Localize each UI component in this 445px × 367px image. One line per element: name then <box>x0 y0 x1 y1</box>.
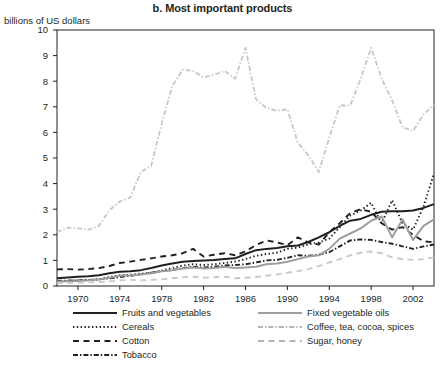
legend-swatch-cotton <box>73 335 117 347</box>
x-tick-label: 1970 <box>67 293 88 304</box>
legend-swatch-fruits-and-vegetables <box>73 307 117 319</box>
legend-column-left: Fruits and vegetables Cereals Cotton Tob… <box>73 306 211 362</box>
legend-swatch-fixed-vegetable-oils <box>258 307 302 319</box>
x-tick-label: 2002 <box>402 293 423 304</box>
x-tick-label: 1986 <box>235 293 256 304</box>
legend-item: Cereals <box>73 320 211 334</box>
x-axis-tick-labels: 197019741978198219861990199419982002 <box>67 293 423 304</box>
series-line-coffee-tea-cocoa-spices <box>57 48 434 232</box>
y-tick-label: 0 <box>43 280 48 291</box>
legend-item: Fruits and vegetables <box>73 306 211 320</box>
legend-swatch-cereals <box>73 321 117 333</box>
y-tick-label: 2 <box>43 229 48 240</box>
y-axis-ticks <box>53 30 57 286</box>
legend-label-fruits-and-vegetables: Fruits and vegetables <box>122 307 211 319</box>
series-line-tobacco <box>57 239 434 280</box>
x-tick-label: 1974 <box>109 293 130 304</box>
data-series-group <box>57 48 434 283</box>
x-tick-label: 1978 <box>151 293 172 304</box>
x-tick-label: 1994 <box>319 293 340 304</box>
y-tick-label: 8 <box>43 76 48 87</box>
legend-swatch-coffee-tea-cocoa-spices <box>258 321 302 333</box>
legend-item: Cotton <box>73 334 211 348</box>
y-tick-label: 5 <box>43 152 48 163</box>
legend-label-sugar-honey: Sugar, honey <box>307 335 362 347</box>
legend-item: Tobacco <box>73 348 211 362</box>
legend-item: Sugar, honey <box>258 334 414 348</box>
y-axis-tick-labels: 012345678910 <box>37 24 48 291</box>
line-chart-plot: 012345678910 197019741978198219861990199… <box>0 0 445 306</box>
y-tick-label: 10 <box>37 24 48 35</box>
y-tick-label: 1 <box>43 255 48 266</box>
legend-column-right: Fixed vegetable oils Coffee, tea, cocoa,… <box>258 306 414 348</box>
y-tick-label: 4 <box>43 178 48 189</box>
x-axis-ticks <box>78 286 413 290</box>
legend-swatch-tobacco <box>73 349 117 361</box>
legend-swatch-sugar-honey <box>258 335 302 347</box>
legend-label-tobacco: Tobacco <box>122 349 157 361</box>
x-tick-label: 1990 <box>277 293 298 304</box>
legend-item: Coffee, tea, cocoa, spices <box>258 320 414 334</box>
x-tick-label: 1998 <box>361 293 382 304</box>
y-tick-label: 9 <box>43 50 48 61</box>
y-tick-label: 6 <box>43 127 48 138</box>
legend-label-fixed-vegetable-oils: Fixed vegetable oils <box>307 307 389 319</box>
legend-item: Fixed vegetable oils <box>258 306 414 320</box>
y-tick-label: 3 <box>43 204 48 215</box>
x-tick-label: 1982 <box>193 293 214 304</box>
legend-label-cotton: Cotton <box>122 335 149 347</box>
y-tick-label: 7 <box>43 101 48 112</box>
legend-label-cereals: Cereals <box>122 321 154 333</box>
chart-legend: Fruits and vegetables Cereals Cotton Tob… <box>0 306 445 367</box>
legend-label-coffee-tea-cocoa-spices: Coffee, tea, cocoa, spices <box>307 321 414 333</box>
